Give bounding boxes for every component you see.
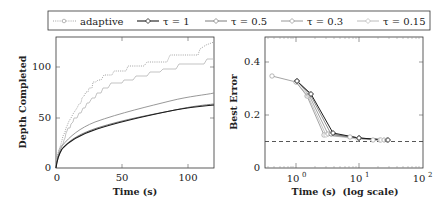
legend-label: adaptive [80,16,124,27]
y-axis-label: Depth Completed [17,55,28,148]
x-tick-label: 10 0 [287,171,307,184]
x-tick-label: 10 2 [413,171,433,184]
x-tick-label: 100 [178,172,197,183]
x-axis-label: Time (s) [113,186,157,197]
svg-text:10: 10 [413,173,426,184]
legend-label: τ = 0.15 [383,16,426,27]
circle-marker-icon [62,19,66,23]
svg-text:1: 1 [365,171,369,179]
legend-label: τ = 0.5 [231,16,267,27]
svg-text:0: 0 [302,171,306,179]
left-plot: 0 50 100 0 50 100 Time (s) Depth Complet… [17,37,214,197]
x-tick-label: 10 1 [350,171,370,184]
left-plot-frame [56,37,214,168]
y-tick-label: 0.4 [244,56,260,67]
y-axis-label: Best Error [228,73,239,130]
svg-text:10: 10 [287,173,300,184]
circle-marker-icon [348,135,352,139]
circle-marker-icon [270,74,274,78]
x-tick-label: 0 [54,172,60,183]
y-tick-label: 100 [32,61,51,72]
figure: adaptive τ = 1 τ = 0.5 τ = 0.3 τ = 0.15 [0,0,446,213]
y-tick-label: 0 [254,162,260,173]
y-tick-label: 50 [38,112,51,123]
circle-marker-icon [371,138,375,142]
right-plot-frame [265,37,423,168]
legend-label: τ = 0.3 [307,16,343,27]
right-plot: 0 0.2 0.4 10 0 10 1 10 2 Time (s) (log s… [228,37,432,197]
y-tick-label: 0 [45,162,51,173]
svg-text:2: 2 [428,171,432,179]
x-axis-label: Time (s) (log scale) [292,186,399,197]
x-tick-label: 50 [116,172,129,183]
legend: adaptive τ = 1 τ = 0.5 τ = 0.3 τ = 0.15 [48,11,430,30]
svg-text:10: 10 [350,173,363,184]
legend-label: τ = 1 [163,16,190,27]
y-tick-label: 0.2 [244,109,260,120]
